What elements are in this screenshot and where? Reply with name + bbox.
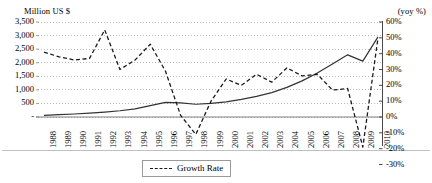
right-axis-tick: 30% xyxy=(386,64,420,74)
growth-rate-legend-label: Growth Rate xyxy=(177,163,223,173)
x-axis-tick: 1991 xyxy=(93,131,103,148)
x-axis-tick: 1992 xyxy=(108,131,118,148)
chart-legend: Growth Rate xyxy=(142,160,231,177)
growth-rate-legend-swatch xyxy=(150,168,172,169)
left-axis-tick: 2,500 xyxy=(0,43,34,53)
left-axis-tick: 500 xyxy=(0,97,34,107)
right-axis-tick: 20% xyxy=(386,79,420,89)
right-axis-tick: 10% xyxy=(386,95,420,105)
left-axis-tick: 3,000 xyxy=(0,30,34,40)
x-axis-tick: 2006 xyxy=(321,131,331,148)
x-axis-tick: 2005 xyxy=(306,131,316,148)
left-axis-tick: - xyxy=(0,111,34,121)
right-axis-tick: -30% xyxy=(386,159,420,169)
x-axis-tick: 2004 xyxy=(290,131,300,148)
x-axis-tick: 2002 xyxy=(260,131,270,148)
right-axis-tick: 0% xyxy=(386,111,420,121)
x-axis-tick: 1995 xyxy=(154,131,164,148)
x-axis-tick: 1994 xyxy=(139,131,149,148)
plot-area xyxy=(0,0,432,183)
x-axis-tick: 2003 xyxy=(275,131,285,148)
x-axis-tick: 2000 xyxy=(230,131,240,148)
x-axis-tick: 1990 xyxy=(78,131,88,148)
x-axis-tick: 2007 xyxy=(336,131,346,148)
x-axis-tick: 1988 xyxy=(48,131,58,148)
left-axis-tick: 3,500 xyxy=(0,16,34,26)
x-axis-tick: 1997 xyxy=(184,131,194,148)
x-axis-tick: 2001 xyxy=(245,131,255,148)
x-axis-tick: 1996 xyxy=(169,131,179,148)
left-axis-tick: 1,000 xyxy=(0,84,34,94)
right-axis-tick: 40% xyxy=(386,48,420,58)
x-axis-tick: 1999 xyxy=(215,131,225,148)
x-axis-tick: 1998 xyxy=(199,131,209,148)
x-axis-tick: 2010 xyxy=(382,131,392,148)
right-axis-tick: 50% xyxy=(386,32,420,42)
x-axis-tick: 1989 xyxy=(63,131,73,148)
x-axis-tick: 2009 xyxy=(366,131,376,148)
left-axis-tick: 2,000 xyxy=(0,57,34,67)
chart-figure: Million US $ (yoy %) 3,5003,0002,5002,00… xyxy=(0,0,432,183)
x-axis-tick: 2008 xyxy=(351,131,361,148)
left-axis-tick: 1,500 xyxy=(0,70,34,80)
x-axis-tick: 1993 xyxy=(123,131,133,148)
right-axis-tick: 60% xyxy=(386,16,420,26)
